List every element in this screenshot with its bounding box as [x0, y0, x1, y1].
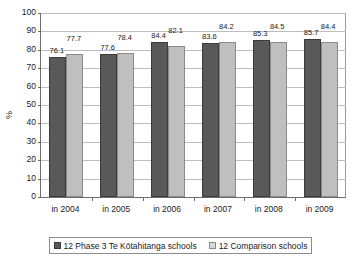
- bar-value-label: 84.2: [215, 23, 238, 31]
- gridline: [41, 50, 346, 51]
- y-tick-mark: [38, 68, 41, 69]
- y-tick-mark: [38, 87, 41, 88]
- gridline: [41, 179, 346, 180]
- y-tick-mark: [38, 50, 41, 51]
- bar: [168, 46, 185, 197]
- y-tick-mark: [38, 142, 41, 143]
- bar: [117, 53, 134, 197]
- x-category-label: in 2006: [142, 204, 193, 214]
- bar: [100, 54, 117, 197]
- y-tick-label: 100: [14, 8, 36, 17]
- gridline: [41, 160, 346, 161]
- gridline: [41, 123, 346, 124]
- bar: [321, 42, 338, 197]
- y-tick-label: 90: [14, 26, 36, 35]
- bar: [202, 43, 219, 197]
- x-tick-mark: [194, 197, 195, 201]
- bar: [253, 40, 270, 197]
- y-tick-label: 20: [14, 155, 36, 164]
- bar-value-label: 83.6: [198, 33, 221, 41]
- y-tick-label: 10: [14, 174, 36, 183]
- y-axis-tick-labels: 1009080706050403020100: [12, 0, 36, 263]
- plot-area: [40, 13, 346, 198]
- bar: [66, 54, 83, 197]
- x-tick-mark: [244, 197, 245, 201]
- bar-value-label: 84.4: [317, 23, 340, 31]
- x-category-label: in 2007: [193, 204, 244, 214]
- x-category-label: in 2008: [243, 204, 294, 214]
- gridline: [41, 87, 346, 88]
- bar-value-label: 82.1: [164, 27, 187, 35]
- bar-value-label: 77.7: [62, 35, 85, 43]
- y-tick-label: 30: [14, 137, 36, 146]
- y-tick-mark: [38, 160, 41, 161]
- x-tick-mark: [295, 197, 296, 201]
- bar-chart: % 1009080706050403020100 in 2004in 2005i…: [0, 0, 358, 263]
- x-category-label: in 2009: [294, 204, 345, 214]
- y-tick-label: 50: [14, 100, 36, 109]
- y-tick-mark: [38, 123, 41, 124]
- bar-value-label: 78.4: [113, 34, 136, 42]
- y-tick-label: 60: [14, 82, 36, 91]
- chart-legend: 12 Phase 3 Te Kōtahitanga schools12 Comp…: [49, 237, 312, 254]
- x-category-label: in 2004: [40, 204, 91, 214]
- x-tick-mark: [143, 197, 144, 201]
- legend-entry: 12 Comparison schools: [209, 241, 308, 251]
- y-tick-label: 0: [14, 192, 36, 201]
- bar-value-label: 77.6: [96, 44, 119, 52]
- gridline: [41, 105, 346, 106]
- gridline: [41, 13, 346, 14]
- bar-value-label: 85.3: [249, 30, 272, 38]
- y-tick-label: 70: [14, 63, 36, 72]
- bar: [270, 42, 287, 197]
- light-gray-swatch: [209, 242, 216, 249]
- gridline: [41, 142, 346, 143]
- bar: [49, 57, 66, 197]
- y-tick-mark: [38, 13, 41, 14]
- legend-entry: 12 Phase 3 Te Kōtahitanga schools: [54, 241, 197, 251]
- bar: [304, 39, 321, 197]
- bar: [151, 42, 168, 197]
- legend-label: 12 Phase 3 Te Kōtahitanga schools: [64, 241, 197, 251]
- bar: [219, 42, 236, 197]
- bar-value-label: 84.5: [266, 23, 289, 31]
- y-tick-mark: [38, 105, 41, 106]
- dark-gray-swatch: [54, 242, 61, 249]
- y-tick-mark: [38, 179, 41, 180]
- bar-value-label: 76.1: [45, 47, 68, 55]
- y-tick-mark: [38, 197, 41, 198]
- y-tick-label: 40: [14, 118, 36, 127]
- x-tick-mark: [92, 197, 93, 201]
- y-tick-mark: [38, 31, 41, 32]
- legend-label: 12 Comparison schools: [219, 241, 308, 251]
- y-tick-label: 80: [14, 45, 36, 54]
- x-category-label: in 2005: [91, 204, 142, 214]
- gridline: [41, 68, 346, 69]
